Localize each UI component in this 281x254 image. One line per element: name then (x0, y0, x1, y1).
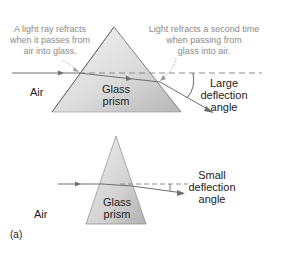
note-air-to-glass: A light ray refracts when it passes from… (10, 24, 90, 57)
angle-label-line: deflection (184, 181, 240, 193)
prism-label-line: prism (97, 208, 137, 220)
prism-label-line: Glass (97, 196, 137, 208)
prism-label-top: Glass prism (96, 83, 136, 107)
air-label-top: Air (30, 86, 43, 98)
large-angle-arc (187, 73, 194, 98)
note-leader-right (162, 58, 176, 79)
prism-label-bottom: Glass prism (97, 196, 137, 220)
arrow-icon (58, 71, 64, 76)
small-deflection-label: Small deflection angle (184, 169, 240, 205)
arrow-icon (73, 67, 79, 72)
note-line: air into glass. (10, 46, 90, 57)
air-label-bottom: Air (34, 208, 47, 220)
angle-label-line: Small (184, 169, 240, 181)
angle-label-line: angle (196, 101, 252, 113)
prism-label-line: prism (96, 95, 136, 107)
note-line: A light ray refracts (10, 24, 90, 35)
note-line: when it passes from (10, 35, 90, 46)
panel-label: (a) (10, 229, 22, 241)
note-glass-to-air: Light refracts a second time when passin… (144, 24, 264, 57)
prism-label-line: Glass (96, 83, 136, 95)
note-line: when passing from (144, 35, 264, 46)
angle-label-line: angle (184, 193, 240, 205)
angle-label-line: Large (196, 77, 252, 89)
note-line: Light refracts a second time (144, 24, 264, 35)
exiting-ray-bottom (132, 186, 183, 193)
arrow-icon (160, 75, 166, 81)
large-deflection-label: Large deflection angle (196, 77, 252, 113)
arrow-icon (75, 182, 81, 187)
angle-label-line: deflection (196, 89, 252, 101)
note-line: glass into air. (144, 46, 264, 57)
